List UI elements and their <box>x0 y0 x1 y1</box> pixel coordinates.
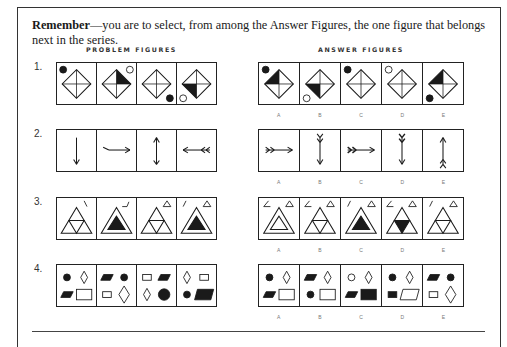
diamond-quadrant-figure-icon <box>177 63 216 104</box>
answer-option-c[interactable] <box>341 265 382 306</box>
problem-figure-4 <box>177 130 216 171</box>
arrow-figure-icon <box>300 130 340 171</box>
answer-option-b[interactable] <box>300 63 341 104</box>
instruction-body: —you are to select, from among the Answe… <box>32 18 485 47</box>
shapes-grid-figure-icon <box>423 265 463 306</box>
arrow-figure-icon <box>177 130 216 171</box>
problem-figures-strip <box>56 197 217 240</box>
answer-label: B <box>300 314 340 320</box>
triangle-figure-icon <box>57 198 96 239</box>
triangle-figure-icon <box>341 198 381 239</box>
shapes-grid-figure-icon <box>97 265 136 306</box>
answer-option-d[interactable] <box>382 130 423 171</box>
arrow-figure-icon <box>423 130 463 171</box>
diamond-quadrant-figure-icon <box>259 63 299 104</box>
problem-figure-3 <box>137 130 177 171</box>
answer-label: D <box>382 179 422 185</box>
question-number: 2. <box>34 128 42 139</box>
problem-figures-strip <box>56 129 217 172</box>
answer-option-d[interactable] <box>382 198 423 239</box>
answer-option-e[interactable] <box>423 265 463 306</box>
instruction-bold: Remember <box>32 18 90 32</box>
answer-option-a[interactable] <box>259 265 300 306</box>
answer-option-c[interactable] <box>341 63 382 104</box>
answer-figures-strip <box>258 129 464 172</box>
answer-label: A <box>259 314 299 320</box>
diamond-quadrant-figure-icon <box>57 63 96 104</box>
diamond-quadrant-figure-icon <box>382 63 422 104</box>
diamond-quadrant-figure-icon <box>423 63 463 104</box>
problem-figure-2 <box>97 265 137 306</box>
question-number: 4. <box>34 263 42 274</box>
arrow-figure-icon <box>259 130 299 171</box>
answer-option-e[interactable] <box>423 198 463 239</box>
answer-option-d[interactable] <box>382 63 423 104</box>
answer-label: B <box>300 179 340 185</box>
shapes-grid-figure-icon <box>57 265 96 306</box>
answer-option-c[interactable] <box>341 198 382 239</box>
answer-label: B <box>300 247 340 253</box>
arrow-figure-icon <box>97 130 136 171</box>
shapes-grid-figure-icon <box>259 265 299 306</box>
triangle-figure-icon <box>382 198 422 239</box>
bottom-rule <box>32 331 485 332</box>
answer-label: D <box>382 112 422 118</box>
answer-option-a[interactable] <box>259 130 300 171</box>
answer-option-e[interactable] <box>423 63 463 104</box>
question-number: 1. <box>34 61 42 72</box>
shapes-grid-figure-icon <box>137 265 176 306</box>
answer-option-b[interactable] <box>300 265 341 306</box>
problem-figure-1 <box>57 198 97 239</box>
arrow-figure-icon <box>57 130 96 171</box>
instruction-text: Remember—you are to select, from among t… <box>32 18 494 48</box>
answer-label: A <box>259 112 299 118</box>
answer-option-a[interactable] <box>259 198 300 239</box>
problem-figures-strip <box>56 62 217 105</box>
answer-label: C <box>341 247 381 253</box>
problem-figure-1 <box>57 130 97 171</box>
problem-figures-strip <box>56 264 217 307</box>
answer-label: E <box>423 314 463 320</box>
answer-label: B <box>300 112 340 118</box>
answer-label: D <box>382 314 422 320</box>
problem-figure-1 <box>57 63 97 104</box>
arrow-figure-icon <box>341 130 381 171</box>
diamond-quadrant-figure-icon <box>137 63 176 104</box>
problem-figure-3 <box>137 265 177 306</box>
problem-figures-header: PROBLEM FIGURES <box>86 46 177 53</box>
answer-option-e[interactable] <box>423 130 463 171</box>
answer-figures-header: ANSWER FIGURES <box>318 46 404 53</box>
answer-figures-strip <box>258 62 464 105</box>
problem-figure-3 <box>137 198 177 239</box>
answer-option-c[interactable] <box>341 130 382 171</box>
triangle-figure-icon <box>137 198 176 239</box>
answer-label: E <box>423 247 463 253</box>
answer-label: D <box>382 247 422 253</box>
triangle-figure-icon <box>97 198 136 239</box>
answer-option-d[interactable] <box>382 265 423 306</box>
answer-label: C <box>341 179 381 185</box>
answer-label: C <box>341 314 381 320</box>
problem-figure-1 <box>57 265 97 306</box>
diamond-quadrant-figure-icon <box>300 63 340 104</box>
arrow-figure-icon <box>382 130 422 171</box>
shapes-grid-figure-icon <box>341 265 381 306</box>
answer-figures-strip <box>258 264 464 307</box>
triangle-figure-icon <box>423 198 463 239</box>
answer-label: A <box>259 179 299 185</box>
answer-option-b[interactable] <box>300 130 341 171</box>
problem-figure-3 <box>137 63 177 104</box>
shapes-grid-figure-icon <box>300 265 340 306</box>
triangle-figure-icon <box>300 198 340 239</box>
answer-option-a[interactable] <box>259 63 300 104</box>
problem-figure-4 <box>177 63 216 104</box>
shapes-grid-figure-icon <box>177 265 216 306</box>
answer-label: A <box>259 247 299 253</box>
answer-label: C <box>341 112 381 118</box>
question-number: 3. <box>34 196 42 207</box>
triangle-figure-icon <box>259 198 299 239</box>
triangle-figure-icon <box>177 198 216 239</box>
answer-option-b[interactable] <box>300 198 341 239</box>
shapes-grid-figure-icon <box>382 265 422 306</box>
answer-label: E <box>423 112 463 118</box>
